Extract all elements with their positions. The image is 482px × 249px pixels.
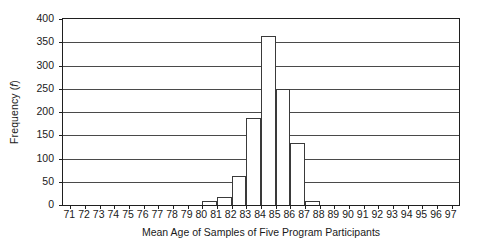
x-tick-label: 86 <box>283 208 295 220</box>
x-tick-label: 92 <box>371 208 383 220</box>
y-tick-label: 150 <box>36 129 54 139</box>
y-tick-label: 300 <box>36 60 54 70</box>
histogram-bar <box>232 176 247 205</box>
x-tick-label: 81 <box>210 208 222 220</box>
x-tick-label: 88 <box>313 208 325 220</box>
x-tick-label: 74 <box>107 208 119 220</box>
x-tick-label: 96 <box>430 208 442 220</box>
histogram-bar <box>305 201 320 205</box>
y-axis-title-text: Frequency (f) <box>8 80 20 144</box>
x-tick-label: 85 <box>269 208 281 220</box>
x-tick-label: 89 <box>327 208 339 220</box>
histogram-bar <box>217 197 232 205</box>
histogram-chart: Frequency (f) 050100150200250300350400 7… <box>0 0 482 249</box>
x-tick-label: 91 <box>357 208 369 220</box>
y-axis-title: Frequency (f) <box>4 18 24 206</box>
y-tick-label: 250 <box>36 83 54 93</box>
x-tick-label: 82 <box>225 208 237 220</box>
y-tick-mark <box>59 112 63 113</box>
x-tick-label: 73 <box>93 208 105 220</box>
x-tick-label: 71 <box>63 208 75 220</box>
y-tick-mark <box>59 42 63 43</box>
x-tick-label: 97 <box>445 208 457 220</box>
x-tick-label: 84 <box>254 208 266 220</box>
plot-area <box>62 18 460 206</box>
y-tick-mark <box>59 19 63 20</box>
histogram-bar <box>276 89 291 205</box>
y-tick-label: 350 <box>36 36 54 46</box>
y-tick-label: 200 <box>36 106 54 116</box>
x-axis-tick-labels: 7172737475767778798081828384858687888990… <box>62 208 460 222</box>
histogram-bar <box>246 118 261 205</box>
y-tick-mark <box>59 135 63 136</box>
x-tick-label: 77 <box>151 208 163 220</box>
y-axis-tick-labels: 050100150200250300350400 <box>22 18 58 206</box>
x-tick-label: 90 <box>342 208 354 220</box>
y-tick-label: 100 <box>36 153 54 163</box>
x-tick-label: 75 <box>122 208 134 220</box>
y-tick-mark <box>59 182 63 183</box>
x-tick-label: 79 <box>181 208 193 220</box>
y-axis-title-symbol: f <box>8 84 20 87</box>
histogram-bar <box>202 201 217 205</box>
x-tick-label: 72 <box>78 208 90 220</box>
y-tick-label: 400 <box>36 13 54 23</box>
x-tick-label: 78 <box>166 208 178 220</box>
y-tick-mark <box>59 205 63 206</box>
y-axis-title-label: Frequency <box>8 93 20 144</box>
x-tick-label: 80 <box>195 208 207 220</box>
histogram-bar <box>261 36 276 205</box>
y-tick-label: 0 <box>48 199 54 209</box>
x-tick-label: 95 <box>415 208 427 220</box>
y-tick-label: 50 <box>42 176 54 186</box>
x-tick-label: 76 <box>137 208 149 220</box>
x-axis-title: Mean Age of Samples of Five Program Part… <box>62 226 460 238</box>
y-tick-mark <box>59 66 63 67</box>
y-tick-mark <box>59 159 63 160</box>
x-tick-label: 87 <box>298 208 310 220</box>
x-tick-label: 93 <box>386 208 398 220</box>
y-tick-mark <box>59 89 63 90</box>
histogram-bar <box>290 143 305 205</box>
x-tick-label: 94 <box>401 208 413 220</box>
x-tick-label: 83 <box>239 208 251 220</box>
